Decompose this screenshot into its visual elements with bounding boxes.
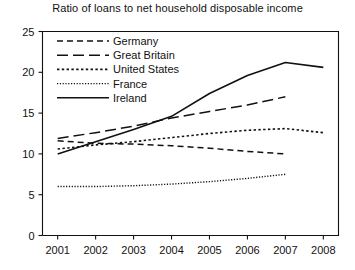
x-axis-tick-label: 2006: [235, 244, 259, 256]
line-chart-plot: 0510152025 20012002200320042005200620072…: [0, 0, 355, 270]
y-axis-tick-group: 0510152025: [22, 26, 42, 242]
x-axis-tick-group: 20012002200320042005200620072008: [45, 236, 335, 256]
legend-label-great-britain: Great Britain: [113, 49, 175, 61]
y-axis-tick-label: 15: [22, 107, 34, 119]
x-axis-tick-label: 2002: [83, 244, 107, 256]
legend-label-united-states: United States: [113, 63, 180, 75]
x-axis-tick-label: 2005: [197, 244, 221, 256]
x-axis-tick-label: 2003: [121, 244, 145, 256]
chart-container: Ratio of loans to net household disposab…: [0, 0, 355, 270]
legend-label-germany: Germany: [113, 35, 159, 47]
x-axis-tick-label: 2008: [311, 244, 335, 256]
y-axis-tick-label: 20: [22, 66, 34, 78]
chart-legend: GermanyGreat BritainUnited StatesFranceI…: [57, 35, 180, 104]
y-axis-tick-label: 5: [28, 189, 34, 201]
x-axis-tick-label: 2007: [273, 244, 297, 256]
legend-label-france: France: [113, 78, 147, 90]
legend-label-ireland: Ireland: [113, 92, 147, 104]
y-axis-tick-label: 10: [22, 148, 34, 160]
series-line-great-britain: [58, 97, 286, 139]
series-line-france: [58, 174, 286, 186]
plot-frame: [43, 32, 339, 236]
series-group: [58, 63, 324, 187]
series-line-ireland: [58, 63, 324, 154]
plot-frame-box: [43, 32, 339, 236]
y-axis-tick-label: 25: [22, 26, 34, 38]
x-axis-tick-label: 2004: [159, 244, 183, 256]
x-axis-tick-label: 2001: [45, 244, 69, 256]
y-axis-tick-label: 0: [28, 230, 34, 242]
